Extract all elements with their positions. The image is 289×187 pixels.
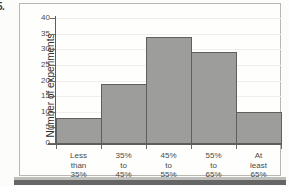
x-axis-tick (281, 145, 282, 149)
page-edge-band (14, 180, 286, 185)
x-axis-tick (146, 145, 147, 149)
x-axis-tick (236, 145, 237, 149)
y-axis-tick (50, 127, 55, 128)
x-axis-category-label-line: to (146, 161, 191, 171)
y-axis-tick (50, 18, 55, 19)
figure-page: 5. 0510152025303540 Number of experiment… (0, 0, 289, 187)
y-axis-tick (50, 112, 55, 113)
bar-series (56, 18, 281, 143)
bar (101, 84, 147, 143)
x-axis-category-label-line: to (191, 161, 236, 171)
bar (146, 37, 192, 143)
x-axis-tick (191, 145, 192, 149)
x-axis-category-label-line: Less (56, 151, 101, 161)
bar (191, 52, 237, 143)
y-axis-tick (50, 65, 55, 66)
y-axis-tick (50, 81, 55, 82)
x-axis-tick (56, 145, 57, 149)
x-axis-category-label-line: than (56, 161, 101, 171)
plot-area (56, 18, 281, 143)
item-number: 5. (0, 1, 4, 12)
x-axis-category-label-line: 35% (101, 151, 146, 161)
x-axis-category-label-line: to (101, 161, 146, 171)
x-axis-tick (101, 145, 102, 149)
y-axis-tick (50, 96, 55, 97)
y-axis-title-container: Number of experiments (27, 18, 41, 143)
y-axis-line (55, 16, 56, 145)
y-axis-tick (50, 143, 55, 144)
x-axis-line (48, 143, 282, 145)
x-axis-category-label-line: 55% (191, 151, 236, 161)
y-axis-tick (50, 34, 55, 35)
bar (236, 112, 282, 143)
x-axis-category-label-line: least (236, 161, 281, 171)
x-axis-category-label-line: 45% (146, 151, 191, 161)
x-axis-category-label-line: At (236, 151, 281, 161)
bar (56, 118, 102, 143)
y-axis-tick (50, 49, 55, 50)
